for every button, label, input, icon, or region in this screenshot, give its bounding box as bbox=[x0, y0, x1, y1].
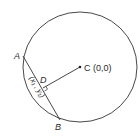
point-c-label: C (0,0) bbox=[84, 63, 112, 73]
circle-chord-diagram: A B C (0,0) D (x₁ , y₁) bbox=[0, 0, 140, 136]
center-point bbox=[79, 66, 82, 69]
point-a-label: A bbox=[13, 51, 20, 61]
point-b-label: B bbox=[55, 122, 61, 132]
segment-cd bbox=[43, 67, 80, 88]
